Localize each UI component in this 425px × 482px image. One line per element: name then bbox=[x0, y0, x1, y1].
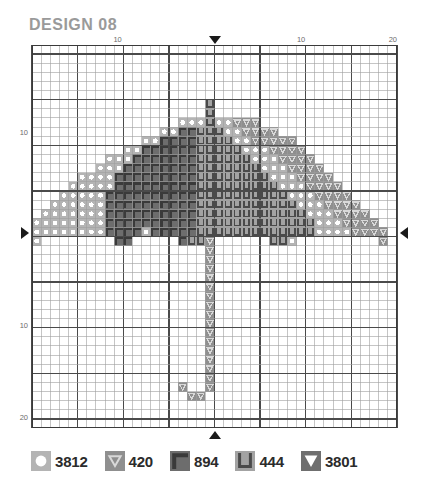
stitch-cell bbox=[215, 200, 224, 209]
stitch-cell bbox=[196, 200, 205, 209]
stitch-cell bbox=[178, 237, 187, 246]
stitch-cell bbox=[287, 200, 296, 209]
stitch-cell bbox=[96, 191, 105, 200]
legend-item: 894 bbox=[170, 451, 218, 471]
stitch-cell bbox=[205, 346, 214, 355]
stitch-cell bbox=[269, 145, 278, 154]
stitch-cell bbox=[50, 209, 59, 218]
stitch-cell bbox=[251, 173, 260, 182]
stitch-cell bbox=[278, 191, 287, 200]
stitch-cell bbox=[251, 209, 260, 218]
stitch-cell bbox=[233, 200, 242, 209]
stitch-cell bbox=[287, 209, 296, 218]
stitch-cell bbox=[123, 237, 132, 246]
stitch-cell bbox=[242, 209, 251, 218]
stitch-cell bbox=[114, 227, 123, 236]
stitch-cell bbox=[87, 173, 96, 182]
stitch-cell bbox=[187, 154, 196, 163]
stitch-cell bbox=[205, 127, 214, 136]
stitch-cell bbox=[224, 209, 233, 218]
stitch-cell bbox=[87, 191, 96, 200]
stitch-cell bbox=[224, 200, 233, 209]
center-marker-bottom-icon bbox=[209, 431, 221, 439]
stitch-cell bbox=[233, 218, 242, 227]
stitch-cell bbox=[196, 209, 205, 218]
stitch-cell bbox=[233, 209, 242, 218]
stitch-cell bbox=[224, 182, 233, 191]
center-marker-top-icon bbox=[209, 36, 221, 44]
stitch-cell bbox=[205, 164, 214, 173]
stitch-cell bbox=[178, 136, 187, 145]
stitch-cell bbox=[205, 154, 214, 163]
stitch-cell bbox=[151, 164, 160, 173]
stitch-cell bbox=[242, 164, 251, 173]
stitch-cell bbox=[69, 191, 78, 200]
stitch-cell bbox=[260, 209, 269, 218]
stitch-cell bbox=[233, 164, 242, 173]
stitch-cell bbox=[287, 173, 296, 182]
stitch-cell bbox=[96, 209, 105, 218]
stitch-cell bbox=[96, 227, 105, 236]
stitch-cell bbox=[69, 182, 78, 191]
stitch-cell bbox=[114, 200, 123, 209]
stitch-cell bbox=[178, 118, 187, 127]
stitch-cell bbox=[306, 209, 315, 218]
stitch-cell bbox=[360, 209, 369, 218]
stitch-cell bbox=[306, 164, 315, 173]
pattern-chart bbox=[31, 45, 398, 428]
stitch-cell bbox=[151, 200, 160, 209]
stitch-cell bbox=[78, 200, 87, 209]
stitch-cell bbox=[233, 136, 242, 145]
stitch-cell bbox=[50, 218, 59, 227]
stitch-cell bbox=[142, 154, 151, 163]
stitch-cell bbox=[59, 227, 68, 236]
grid-lines bbox=[32, 45, 397, 428]
stitch-cell bbox=[324, 191, 333, 200]
stitch-cell bbox=[251, 164, 260, 173]
stitch-cell bbox=[278, 227, 287, 236]
legend-swatch-circle-icon bbox=[31, 451, 51, 471]
stitch-cell bbox=[142, 209, 151, 218]
legend-item: 3812 bbox=[31, 451, 88, 471]
stitch-cell bbox=[260, 154, 269, 163]
stitch-cell bbox=[105, 182, 114, 191]
stitch-cell bbox=[132, 200, 141, 209]
stitch-cell bbox=[87, 218, 96, 227]
stitch-cell bbox=[297, 218, 306, 227]
stitch-cell bbox=[187, 173, 196, 182]
stitch-cell bbox=[297, 154, 306, 163]
legend-thread-code: 3812 bbox=[55, 453, 88, 470]
stitch-cell bbox=[306, 154, 315, 163]
stitch-cell bbox=[242, 154, 251, 163]
stitch-cell bbox=[196, 127, 205, 136]
stitch-cell bbox=[251, 118, 260, 127]
stitch-cell bbox=[333, 218, 342, 227]
stitch-cell bbox=[59, 191, 68, 200]
stitch-cell bbox=[105, 209, 114, 218]
stitch-cell bbox=[160, 191, 169, 200]
stitch-cell bbox=[69, 227, 78, 236]
stitch-cell bbox=[178, 200, 187, 209]
stitch-cell bbox=[169, 227, 178, 236]
page-title: DESIGN 08 bbox=[29, 16, 117, 34]
stitch-cell bbox=[269, 136, 278, 145]
stitch-cell bbox=[196, 392, 205, 401]
stitch-cell bbox=[360, 218, 369, 227]
stitch-cell bbox=[69, 218, 78, 227]
stitch-cell bbox=[224, 127, 233, 136]
stitch-cell bbox=[178, 154, 187, 163]
stitch-cell bbox=[342, 191, 351, 200]
stitch-cell bbox=[187, 191, 196, 200]
stitch-cell bbox=[169, 209, 178, 218]
stitch-cell bbox=[215, 218, 224, 227]
stitch-cell bbox=[114, 173, 123, 182]
stitch-cell bbox=[215, 173, 224, 182]
stitch-cell bbox=[251, 218, 260, 227]
stitch-cell bbox=[41, 227, 50, 236]
stitch-cell bbox=[78, 209, 87, 218]
stitch-cell bbox=[169, 182, 178, 191]
stitch-cell bbox=[205, 364, 214, 373]
stitch-cell bbox=[151, 154, 160, 163]
legend-item: 444 bbox=[235, 451, 283, 471]
stitch-cell bbox=[242, 182, 251, 191]
